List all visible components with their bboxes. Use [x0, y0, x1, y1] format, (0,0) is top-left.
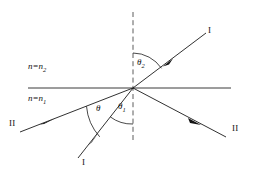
ray-upper-right-arrowhead — [163, 59, 173, 67]
medium-label-upper-subscript: 2 — [43, 66, 46, 73]
ray-right-arrowhead — [188, 118, 201, 125]
ray-label-upper-right: I — [208, 26, 211, 35]
medium-label-lower-subscript: 1 — [43, 98, 46, 105]
optics-ray-diagram: n=n2 n=n1 θ2 θ1 θ I I II II — [0, 0, 259, 178]
ray-label-left: II — [9, 119, 15, 128]
angle-label-theta1: θ1 — [118, 102, 126, 113]
medium-label-upper: n=n2 — [28, 62, 46, 73]
angle-label-theta: θ — [96, 104, 100, 115]
medium-label-lower: n=n1 — [28, 94, 46, 105]
angle-theta1-subscript: 1 — [122, 106, 125, 113]
angle-theta2-subscript: 2 — [141, 62, 144, 69]
ray-label-lower-left: I — [82, 158, 85, 167]
ray-right-line — [133, 88, 226, 137]
theta1-arc — [110, 117, 133, 124]
angle-theta-symbol: θ — [96, 103, 100, 113]
angle-label-theta2: θ2 — [137, 58, 145, 69]
diagram-canvas — [0, 0, 259, 178]
ray-label-right: II — [232, 124, 238, 133]
